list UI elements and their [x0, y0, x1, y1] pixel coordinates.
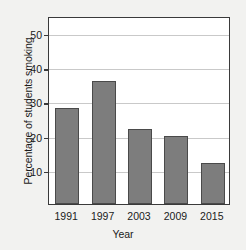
x-axis-title: Year: [0, 228, 246, 240]
bar-chart-figure: Percentage of students smoking 102030405…: [0, 0, 246, 250]
x-tick-label-1991: 1991: [55, 210, 78, 222]
y-tick-mark: [44, 35, 49, 36]
y-tick-label: 40: [30, 63, 42, 75]
y-tick-label: 20: [30, 132, 42, 144]
y-tick-label: 50: [30, 29, 42, 41]
bar-2003: [128, 129, 152, 204]
x-tick-label-2003: 2003: [127, 210, 150, 222]
y-tick-mark: [44, 69, 49, 70]
y-gridline: [49, 35, 229, 36]
bar-1991: [55, 108, 79, 204]
bar-2015: [201, 163, 225, 204]
x-tick-label-1997: 1997: [91, 210, 114, 222]
bar-2009: [164, 136, 188, 204]
y-tick-mark: [44, 138, 49, 139]
x-tick-label-2009: 2009: [164, 210, 187, 222]
y-tick-label: 30: [30, 97, 42, 109]
bar-1997: [92, 81, 116, 204]
y-tick-mark: [44, 103, 49, 104]
y-tick-mark: [44, 172, 49, 173]
y-tick-label: 10: [30, 166, 42, 178]
y-gridline: [49, 103, 229, 104]
plot-inner: 1020304050: [49, 18, 229, 204]
plot-area: 1020304050: [48, 17, 230, 205]
y-gridline: [49, 69, 229, 70]
x-tick-label-2015: 2015: [200, 210, 223, 222]
